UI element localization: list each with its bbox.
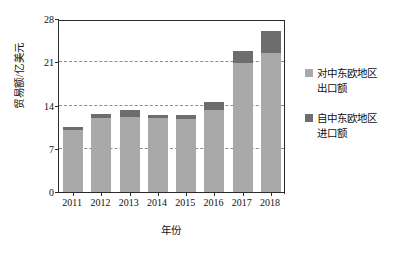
legend-entry-0[interactable]: 对中东欧地区出口额 (305, 66, 415, 96)
legend-label-line2: 进口额 (317, 126, 415, 141)
y-tick-label: 21 (44, 57, 54, 68)
legend-label-line1: 自中东欧地区 (317, 111, 377, 126)
bar-group[interactable] (91, 114, 111, 192)
bar-segment-import[interactable] (233, 51, 253, 63)
bar-group[interactable] (63, 127, 83, 192)
bar-group[interactable] (233, 51, 253, 192)
bar-segment-import[interactable] (204, 102, 224, 111)
x-tick-label-2018: 2018 (250, 197, 290, 208)
y-tick-label: 7 (49, 143, 54, 154)
chart-figure: 贸易额/亿美元 07142128 20112012201320142015201… (0, 0, 418, 258)
bar-group[interactable] (176, 115, 196, 192)
bar-segment-export[interactable] (63, 130, 83, 192)
legend-label-line1: 对中东欧地区 (317, 66, 377, 81)
legend-label-line2: 出口额 (317, 81, 415, 96)
bar-segment-export[interactable] (233, 63, 253, 192)
x-tick-mark (271, 192, 272, 196)
chart-legend: 对中东欧地区出口额自中东欧地区进口额 (305, 66, 415, 156)
bar-segment-export[interactable] (91, 118, 111, 192)
x-tick-mark (158, 192, 159, 196)
x-tick-mark (243, 192, 244, 196)
bar-segment-export[interactable] (204, 110, 224, 192)
legend-swatch-icon (305, 114, 313, 122)
bar-segment-export[interactable] (120, 117, 140, 192)
x-axis-title: 年份 (58, 222, 284, 237)
plot-area: 07142128 (58, 20, 284, 193)
x-tick-mark (214, 192, 215, 196)
bar-segment-export[interactable] (261, 53, 281, 192)
bar-series-container (59, 21, 284, 192)
bar-group[interactable] (120, 110, 140, 192)
bar-segment-export[interactable] (176, 119, 196, 192)
legend-swatch-icon (305, 69, 313, 77)
bar-group[interactable] (261, 31, 281, 192)
y-tick-label: 0 (49, 187, 54, 198)
y-tick-mark (55, 192, 59, 193)
bar-group[interactable] (148, 115, 168, 192)
y-tick-label: 28 (44, 14, 54, 25)
y-axis-title: 贸易额/亿美元 (11, 12, 26, 140)
bar-segment-import[interactable] (261, 31, 281, 53)
bar-segment-export[interactable] (148, 118, 168, 192)
x-tick-mark (101, 192, 102, 196)
plot-right-spine (284, 20, 285, 194)
y-tick-label: 14 (44, 100, 54, 111)
x-tick-mark (130, 192, 131, 196)
x-tick-mark (73, 192, 74, 196)
legend-row: 对中东欧地区 (305, 66, 415, 81)
x-tick-mark (186, 192, 187, 196)
y-tick-mark (55, 19, 59, 20)
legend-entry-1[interactable]: 自中东欧地区进口额 (305, 111, 415, 141)
legend-row: 自中东欧地区 (305, 111, 415, 126)
bar-group[interactable] (204, 102, 224, 192)
bar-segment-import[interactable] (120, 110, 140, 117)
